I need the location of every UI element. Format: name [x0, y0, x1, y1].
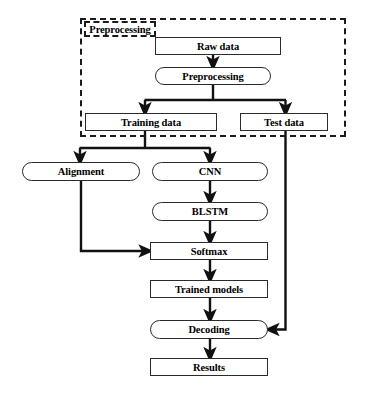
flowchart-diagram: Preprocessing Raw data Preprocessing Tra…: [0, 0, 365, 394]
node-blstm[interactable]: BLSTM: [152, 202, 268, 221]
node-trained-models[interactable]: Trained models: [150, 280, 268, 298]
node-softmax[interactable]: Softmax: [150, 242, 268, 260]
node-results[interactable]: Results: [150, 358, 268, 376]
preprocessing-group-label: Preprocessing: [84, 21, 156, 37]
edge-alignment-to-softmax: [81, 181, 146, 251]
node-preprocessing[interactable]: Preprocessing: [155, 67, 271, 85]
node-test-data[interactable]: Test data: [240, 113, 328, 131]
node-decoding[interactable]: Decoding: [150, 320, 268, 339]
node-training-data[interactable]: Training data: [85, 113, 217, 131]
node-cnn[interactable]: CNN: [152, 162, 268, 181]
node-alignment[interactable]: Alignment: [22, 162, 140, 181]
node-raw-data[interactable]: Raw data: [155, 37, 281, 55]
edge-test-data-to-decoding: [272, 131, 286, 330]
